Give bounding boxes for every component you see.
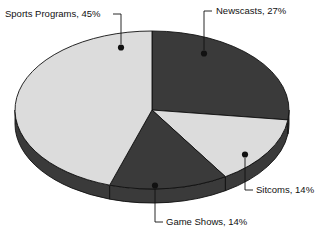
label-newscasts: Newscasts, 27% xyxy=(216,5,287,16)
pie-slice-newscasts[interactable] xyxy=(152,31,289,120)
pie-chart-figure: Sports Programs, 45% Newscasts, 27% Sitc… xyxy=(0,0,329,234)
label-game-shows: Game Shows, 14% xyxy=(166,216,248,227)
leader-dot-newscasts xyxy=(201,50,207,56)
label-sitcoms: Sitcoms, 14% xyxy=(256,184,315,195)
leader-dot-sitcoms xyxy=(242,151,248,157)
leader-dot-game-shows xyxy=(152,182,158,188)
pie-top-face xyxy=(15,31,289,189)
leader-dot-sports-programs xyxy=(118,44,124,50)
label-sports-programs: Sports Programs, 45% xyxy=(5,8,101,19)
pie-chart-svg: Sports Programs, 45% Newscasts, 27% Sitc… xyxy=(0,0,329,234)
